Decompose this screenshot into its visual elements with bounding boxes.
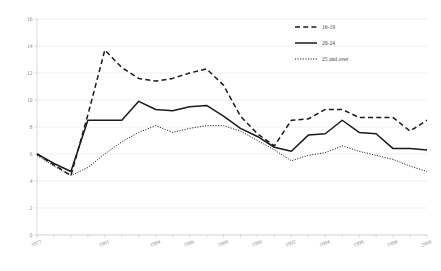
x-tick-label: 1986 bbox=[183, 238, 196, 248]
x-tick-label: 1988 bbox=[217, 238, 230, 248]
data-series-group bbox=[37, 50, 427, 176]
chart-legend: 16-1920-2425 and over bbox=[295, 24, 349, 62]
legend-label-25-and-over: 25 and over bbox=[322, 56, 349, 62]
y-tick-label: 6 bbox=[30, 151, 33, 157]
y-tick-label: 4 bbox=[30, 178, 33, 184]
chart-canvas: 0246810121416 19771981198419861988199019… bbox=[0, 0, 441, 271]
y-tick-label: 10 bbox=[27, 97, 33, 103]
gridlines bbox=[37, 19, 427, 235]
y-tick-label: 16 bbox=[27, 16, 33, 22]
y-axis-labels: 0246810121416 bbox=[27, 16, 33, 238]
legend-label-16-19: 16-19 bbox=[322, 24, 335, 30]
y-tick-label: 0 bbox=[30, 232, 33, 238]
x-tick-label: 2000 bbox=[420, 238, 433, 248]
x-tick-label: 1990 bbox=[251, 238, 264, 248]
line-chart: 0246810121416 19771981198419861988199019… bbox=[0, 0, 441, 271]
legend-label-20-24: 20-24 bbox=[322, 40, 335, 46]
x-tick-label: 1994 bbox=[318, 238, 331, 248]
x-tick-label: 1998 bbox=[386, 238, 399, 248]
y-tick-label: 8 bbox=[30, 124, 33, 130]
y-tick-label: 2 bbox=[30, 205, 33, 211]
x-tick-label: 1981 bbox=[98, 238, 111, 248]
x-tick-label: 1984 bbox=[149, 238, 162, 248]
y-tick-label: 14 bbox=[27, 43, 33, 49]
series-line-16-19 bbox=[37, 50, 427, 176]
x-axis-labels: 1977198119841986198819901992199419961998… bbox=[30, 238, 433, 248]
x-tick-label: 1992 bbox=[284, 238, 297, 248]
x-tick-label: 1996 bbox=[352, 238, 365, 248]
y-tick-label: 12 bbox=[27, 70, 33, 76]
x-tick-label: 1977 bbox=[30, 238, 43, 248]
